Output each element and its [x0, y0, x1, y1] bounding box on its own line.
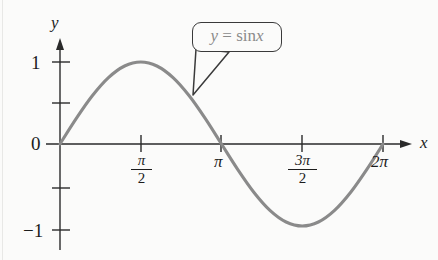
x-axis: [46, 140, 412, 148]
x-axis-label: x: [420, 134, 428, 151]
x-tick-3pi-over-2-denominator: 2: [288, 170, 317, 186]
y-axis-ticks: [52, 62, 70, 230]
callout-equals: =: [222, 26, 232, 45]
y-axis-label: y: [51, 14, 59, 31]
x-tick-label-3pi-over-2: 3π 2: [288, 153, 317, 186]
callout-y-symbol: y: [210, 26, 218, 45]
x-tick-label-2pi: 2π: [371, 153, 388, 170]
equation-callout-text: y = sinx: [192, 27, 282, 44]
x-tick-label-pi-over-2: π 2: [131, 153, 152, 186]
callout-argument: x: [256, 26, 264, 45]
y-tick-label-1: 1: [31, 53, 41, 72]
x-tick-label-pi: π: [214, 153, 223, 170]
x-tick-3pi-over-2-numerator: 3π: [288, 153, 317, 169]
x-tick-pi-over-2-denominator: 2: [131, 170, 152, 186]
y-tick-label-minus-1: −1: [23, 221, 43, 240]
callout-function-name: sin: [236, 26, 256, 45]
sine-graph-figure: y x 1 0 −1 π 2 π 3π 2 2π y = sinx: [0, 0, 438, 260]
y-tick-label-0: 0: [31, 134, 41, 153]
x-tick-pi-over-2-numerator: π: [131, 153, 152, 169]
